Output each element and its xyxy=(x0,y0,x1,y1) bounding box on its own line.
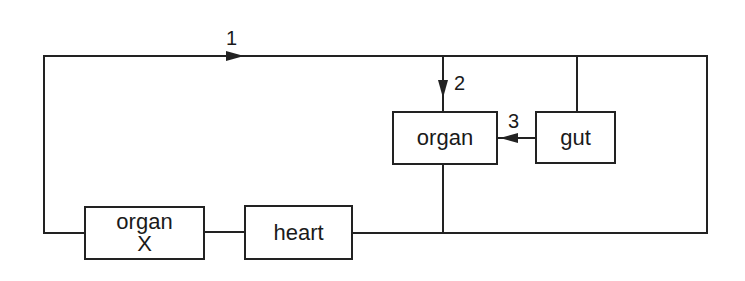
flow2-arrow-icon xyxy=(438,80,448,98)
flow1-label: 1 xyxy=(226,28,237,48)
flow3-label: 3 xyxy=(508,111,519,131)
heart-label: heart xyxy=(273,222,323,244)
flow3-arrow-icon xyxy=(500,133,518,143)
organ-x-box: organ X xyxy=(84,206,205,260)
heart-box: heart xyxy=(244,205,353,260)
flow1-arrow-icon xyxy=(226,51,244,61)
organ-label: organ xyxy=(417,127,473,149)
gut-label: gut xyxy=(560,127,591,149)
organ-x-label-line1: organ xyxy=(116,211,172,233)
flow2-label: 2 xyxy=(454,73,465,93)
organ-box: organ xyxy=(392,111,498,165)
organ-x-label-line2: X xyxy=(137,233,152,255)
gut-box: gut xyxy=(535,111,616,164)
